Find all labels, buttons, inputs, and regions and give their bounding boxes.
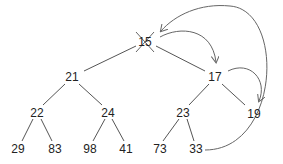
arrow-17-to-19 — [228, 68, 261, 101]
edge-21-22 — [43, 84, 65, 105]
edge-21-24 — [79, 84, 102, 105]
node-24: 24 — [101, 107, 114, 119]
tree-edges — [22, 46, 245, 141]
node-22: 22 — [30, 107, 43, 119]
node-21: 21 — [65, 71, 78, 83]
edge-22-83 — [41, 119, 52, 141]
node-33: 33 — [189, 143, 202, 155]
edge-15-17 — [156, 46, 205, 71]
node-29: 29 — [11, 143, 24, 155]
edge-22-29 — [22, 119, 33, 141]
edge-24-41 — [112, 119, 124, 141]
node-83: 83 — [48, 143, 61, 155]
node-19: 19 — [247, 108, 260, 120]
edge-15-21 — [84, 46, 136, 71]
node-23: 23 — [176, 107, 189, 119]
heap-edges-and-arrows — [0, 0, 283, 164]
node-41: 41 — [119, 143, 132, 155]
edge-17-23 — [189, 84, 209, 105]
node-73: 73 — [153, 143, 166, 155]
node-98: 98 — [83, 143, 96, 155]
heap-diagram: 15 21 17 22 24 23 19 29 83 98 41 73 33 — [0, 0, 283, 164]
node-17: 17 — [208, 71, 221, 83]
node-15-root: 15 — [138, 36, 151, 48]
edge-24-98 — [93, 119, 105, 141]
arrow-15-to-17 — [160, 31, 216, 62]
edge-17-19 — [222, 84, 245, 105]
edge-23-33 — [187, 119, 194, 141]
edge-23-73 — [163, 119, 179, 141]
